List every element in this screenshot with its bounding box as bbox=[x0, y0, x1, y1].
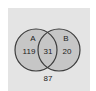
set-a-label: A bbox=[30, 35, 35, 43]
set-a-only-count: 119 bbox=[23, 48, 36, 56]
set-b-label: B bbox=[63, 35, 68, 43]
intersection-count: 31 bbox=[44, 48, 53, 56]
set-b-only-count: 20 bbox=[63, 48, 72, 56]
venn-diagram: A B 119 31 20 87 bbox=[0, 0, 96, 91]
outside-count: 87 bbox=[44, 75, 53, 83]
